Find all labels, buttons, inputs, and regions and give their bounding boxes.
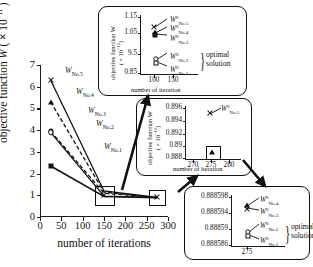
inset-mid-ytick-1: 0.894 bbox=[166, 117, 182, 124]
inset-top-leaders bbox=[140, 15, 198, 75]
inset-bottom-label-no1: W0No.1 bbox=[260, 236, 278, 247]
marker-no1-start bbox=[48, 164, 53, 169]
inset-top-label-no3: W0No.3 bbox=[170, 34, 188, 45]
main-xtick-150: 150 bbox=[96, 221, 112, 232]
inset-middle-cluster-marker bbox=[209, 150, 215, 155]
inset-mid-xtick-2: 280 bbox=[224, 162, 235, 169]
marker-no5-start bbox=[47, 77, 54, 84]
main-ytick-4: 4 bbox=[30, 125, 35, 136]
main-xtick-50: 50 bbox=[56, 221, 67, 232]
inset-middle-x-label: number of iteration bbox=[173, 165, 222, 172]
inset-mid-ytick-4: 0.888 bbox=[166, 154, 182, 161]
marker-cluster-275 bbox=[154, 194, 161, 201]
main-x-axis-label: number of iterations bbox=[40, 237, 168, 249]
inset-bottom-brace: } bbox=[285, 223, 290, 243]
inset-top-marker-no3 bbox=[153, 33, 158, 38]
inset-bot-ytick-2: 0.88859 bbox=[205, 225, 228, 232]
inset-mid-ytick-2: 0.892 bbox=[166, 130, 182, 137]
figure-convergence-plot: objective function W ( × 10−11 ) 0 1 2 3… bbox=[0, 0, 313, 267]
inset-bottom: 0.888598 0.888594 0.88859 0.888586 275 W… bbox=[184, 186, 310, 260]
inset-top-ytick-0: 1.15 bbox=[124, 13, 137, 20]
inset-top-axes: 1.15 1.05 9.5 0.85 100 150 bbox=[140, 15, 198, 75]
series-label-no1: WNo.1 bbox=[104, 143, 122, 153]
inset-top-xtick-0: 100 bbox=[149, 77, 160, 84]
main-xtick-0: 0 bbox=[37, 221, 42, 232]
inset-bottom-marker-no3 bbox=[244, 206, 251, 213]
inset-middle-y-label: objective function W( × 10−11) bbox=[146, 111, 162, 165]
series-label-no5: WNo.5 bbox=[65, 67, 83, 77]
marker-no2-start bbox=[48, 130, 53, 135]
series-label-no4: WNo.4 bbox=[76, 88, 94, 98]
marker-no4-start bbox=[48, 99, 54, 104]
inset-middle-label-no5: W0No.5 bbox=[221, 104, 239, 115]
inset-middle-marker-no5 bbox=[207, 110, 214, 117]
main-xtick-300: 300 bbox=[160, 221, 176, 232]
inset-bottom-label-no3: W0No.3 bbox=[260, 207, 278, 218]
inset-top-y-label: objective function W( × 10−11) bbox=[109, 26, 125, 80]
main-xtick-100: 100 bbox=[75, 221, 91, 232]
main-ytick-7: 7 bbox=[30, 60, 35, 71]
inset-top-label-no2: W0No.2 bbox=[170, 52, 188, 63]
inset-bot-ytick-3: 0.888586 bbox=[201, 241, 228, 248]
main-xtick-250: 250 bbox=[139, 221, 155, 232]
inset-top-ytick-3: 0.85 bbox=[124, 69, 137, 76]
main-ytick-5: 5 bbox=[30, 103, 35, 114]
main-y-axis-label: objective function W ( × 10−11 ) bbox=[0, 2, 9, 143]
inset-bot-xtick-0: 275 bbox=[242, 249, 253, 256]
inset-bottom-marker-no1 bbox=[246, 234, 251, 239]
inset-top-brace: } bbox=[200, 50, 205, 70]
inset-middle: objective function W( × 10−11) 0.896 0.8… bbox=[136, 98, 252, 176]
inset-bot-ytick-1: 0.888594 bbox=[201, 209, 228, 216]
main-ytick-3: 3 bbox=[30, 147, 35, 158]
inset-top-x-label: number of iteration bbox=[131, 86, 180, 93]
main-ytick-1: 1 bbox=[30, 190, 35, 201]
inset-top: objective function W( × 10−11) 1.15 1.05… bbox=[98, 6, 247, 96]
inset-mid-ytick-0: 0.896 bbox=[166, 104, 182, 111]
inset-bottom-annotation: optimalsolution bbox=[291, 223, 313, 240]
inset-mid-ytick-3: 0.89 bbox=[169, 142, 182, 149]
series-label-no2: WNo.2 bbox=[96, 120, 114, 130]
marker-cluster-150 bbox=[101, 192, 108, 199]
main-ytick-2: 2 bbox=[30, 168, 35, 179]
main-xtick-200: 200 bbox=[117, 221, 133, 232]
inset-bot-ytick-0: 0.888598 bbox=[201, 193, 228, 200]
main-ytick-0: 0 bbox=[30, 212, 35, 223]
inset-bottom-label-no4: W0No.4 bbox=[260, 195, 278, 206]
inset-top-xtick-1: 150 bbox=[168, 77, 179, 84]
inset-top-annotation: optimalsolution bbox=[206, 51, 230, 68]
inset-bottom-label-no2: W0No.2 bbox=[260, 221, 278, 232]
inset-top-marker-no1 bbox=[154, 61, 159, 66]
main-ytick-6: 6 bbox=[30, 81, 35, 92]
inset-top-ytick-1: 1.05 bbox=[124, 29, 137, 36]
inset-top-label-no1: W0No.1 bbox=[170, 65, 188, 76]
series-label-no3: WNo.3 bbox=[88, 107, 106, 117]
inset-top-ytick-2: 9.5 bbox=[128, 50, 137, 57]
